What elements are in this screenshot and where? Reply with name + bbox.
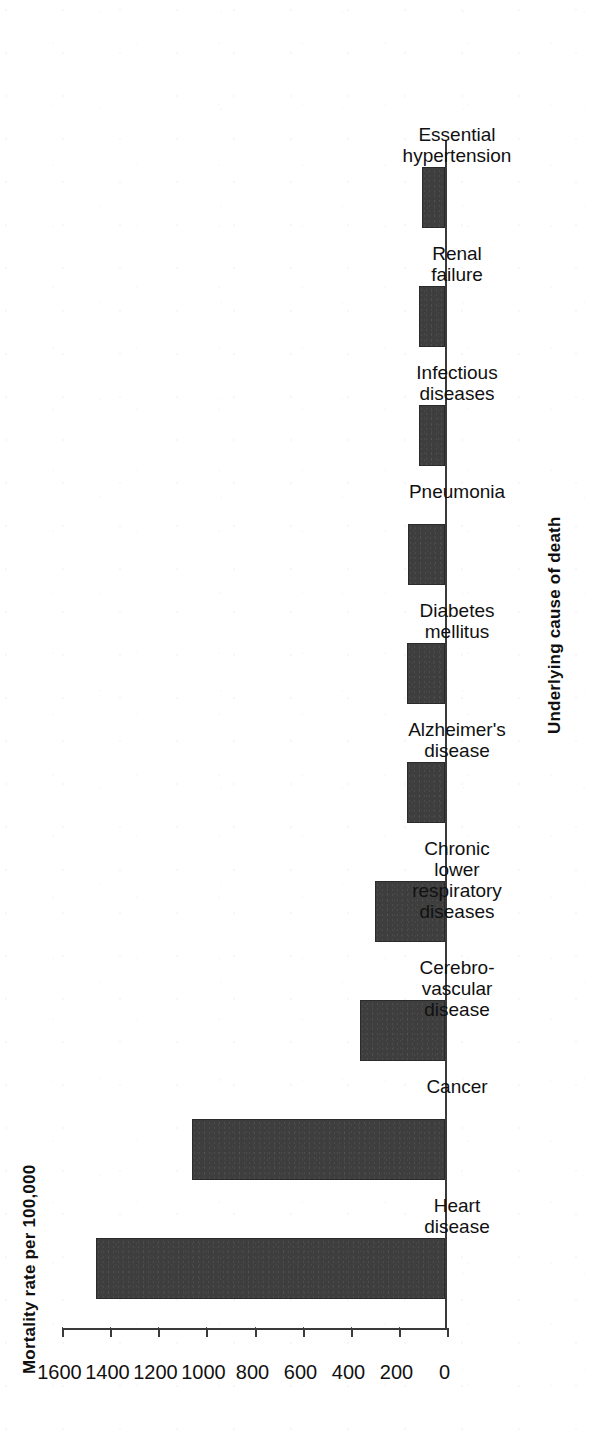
category-axis-title: Underlying cause of death [545, 516, 565, 734]
value-axis-tick [110, 1328, 112, 1337]
category-label-line: failure [382, 265, 532, 286]
category-label: Alzheimer'sdisease [382, 720, 532, 762]
category-label-line: disease [382, 1000, 532, 1021]
category-label: Essentialhypertension [382, 125, 532, 167]
value-axis-tick-label: 1000 [176, 1361, 232, 1384]
value-axis-tick [351, 1328, 353, 1337]
bar [192, 1119, 445, 1181]
category-label: Cerebro-vasculardisease [382, 958, 532, 1021]
bar [422, 167, 445, 229]
category-label-line: diseases [382, 384, 532, 405]
category-label: Heartdisease [382, 1196, 532, 1238]
bar [408, 524, 445, 586]
value-axis-tick [62, 1328, 64, 1337]
category-label-line: mellitus [382, 622, 532, 643]
value-axis-tick [447, 1328, 449, 1337]
category-label-line: Renal [382, 244, 532, 265]
category-label-line: Diabetes [382, 601, 532, 622]
bar [407, 762, 446, 824]
bar [96, 1238, 445, 1300]
category-label: Cancer [382, 1077, 532, 1098]
category-label-line: disease [382, 1217, 532, 1238]
bar [407, 643, 446, 705]
category-label-line: vascular [382, 979, 532, 1000]
category-label: Pneumonia [382, 482, 532, 503]
value-axis-tick [158, 1328, 160, 1337]
category-label: Chroniclowerrespiratorydiseases [382, 839, 532, 923]
category-label-line: Infectious [382, 363, 532, 384]
category-label: Renalfailure [382, 244, 532, 286]
bar [419, 286, 445, 348]
category-label-line: lower [382, 860, 532, 881]
category-label-line: disease [382, 741, 532, 762]
category-label-line: Pneumonia [382, 482, 532, 503]
category-label-line: Cancer [382, 1077, 532, 1098]
value-axis-tick-label: 0 [417, 1361, 473, 1384]
category-label-line: Cerebro- [382, 958, 532, 979]
category-label: Diabetesmellitus [382, 601, 532, 643]
category-label-line: Chronic [382, 839, 532, 860]
category-label-line: Essential [382, 125, 532, 146]
category-label-line: hypertension [382, 146, 532, 167]
category-label-line: Alzheimer's [382, 720, 532, 741]
category-label-line: Heart [382, 1196, 532, 1217]
category-label-line: diseases [382, 902, 532, 923]
value-axis-tick [303, 1328, 305, 1337]
value-axis-tick [399, 1328, 401, 1337]
value-axis-title: Mortality rate per 100,000 [20, 1165, 40, 1374]
category-label-line: respiratory [382, 881, 532, 902]
value-axis-tick [206, 1328, 208, 1337]
chart-figure: Mortality rate per 100,000 Underlying ca… [0, 0, 593, 1434]
category-label: Infectiousdiseases [382, 363, 532, 405]
bar [419, 405, 445, 467]
value-axis-tick [255, 1328, 257, 1337]
